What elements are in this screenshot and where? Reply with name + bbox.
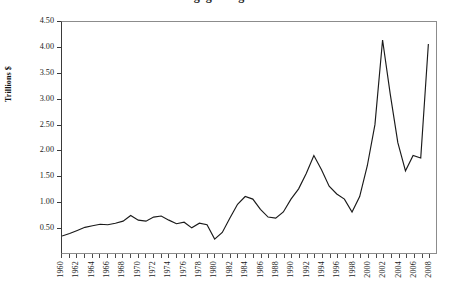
x-axis-tick-mark bbox=[168, 254, 169, 258]
x-axis-tick-mark bbox=[376, 254, 377, 258]
y-axis-tick-label: 2.50 bbox=[24, 120, 54, 129]
x-axis-tick-mark bbox=[207, 254, 208, 258]
x-axis-tick-mark bbox=[115, 254, 116, 258]
x-axis-tick-mark bbox=[184, 254, 185, 258]
y-axis-tick-label: 1.00 bbox=[24, 197, 54, 206]
x-axis-tick-mark bbox=[399, 254, 400, 258]
x-axis-tick-label: 2002 bbox=[379, 261, 387, 278]
plot-area bbox=[61, 21, 437, 254]
x-axis-tick-mark bbox=[237, 254, 238, 258]
x-axis-tick-mark bbox=[130, 254, 131, 258]
x-axis-tick-mark bbox=[161, 254, 162, 258]
y-axis-tick-label: 2.00 bbox=[24, 145, 54, 154]
x-axis-tick-label: 1966 bbox=[103, 261, 111, 278]
x-axis-tick-mark bbox=[345, 254, 346, 258]
y-axis-tick-label: 4.50 bbox=[24, 16, 54, 25]
x-axis-tick-mark bbox=[191, 254, 192, 258]
x-axis-tick-mark bbox=[199, 254, 200, 258]
x-axis-tick-label: 2000 bbox=[364, 261, 372, 278]
x-axis-tick-mark bbox=[230, 254, 231, 258]
x-axis-tick-mark bbox=[368, 254, 369, 258]
x-axis-tick-mark bbox=[214, 254, 215, 258]
x-axis-tick-label: 1968 bbox=[118, 261, 126, 278]
x-axis-tick-mark bbox=[176, 254, 177, 258]
x-axis-tick-mark bbox=[383, 254, 384, 258]
x-axis-tick-label: 1970 bbox=[134, 261, 142, 278]
y-axis-tick-label: 3.00 bbox=[24, 94, 54, 103]
x-axis-tick-mark bbox=[429, 254, 430, 258]
x-axis-tick-mark bbox=[153, 254, 154, 258]
x-axis-tick-mark bbox=[314, 254, 315, 258]
x-axis-tick-label: 2008 bbox=[425, 261, 433, 278]
x-axis-tick-mark bbox=[222, 254, 223, 258]
x-axis-tick-label: 1972 bbox=[149, 261, 157, 278]
x-axis-tick-label: 1992 bbox=[303, 261, 311, 278]
x-axis-tick-label: 1996 bbox=[333, 261, 341, 278]
line-series-svg bbox=[62, 22, 436, 253]
x-axis-tick-label: 1988 bbox=[272, 261, 280, 278]
x-axis-tick-mark bbox=[422, 254, 423, 258]
y-axis-tick-label: 3.50 bbox=[24, 68, 54, 77]
x-axis-tick-mark bbox=[69, 254, 70, 258]
x-axis-tick-mark bbox=[291, 254, 292, 258]
mortgage-originations-line bbox=[62, 40, 428, 239]
x-axis-tick-mark bbox=[391, 254, 392, 258]
chart-title: Mortgage Originations bbox=[0, 0, 452, 4]
x-axis-tick-label: 1984 bbox=[241, 261, 249, 278]
x-axis-tick-mark bbox=[253, 254, 254, 258]
y-axis-tick-label: 0.50 bbox=[24, 223, 54, 232]
x-axis-tick-mark bbox=[107, 254, 108, 258]
chart-figure: Mortgage Originations Trillions $ 0.501.… bbox=[0, 0, 452, 297]
x-axis-tick-label: 1990 bbox=[287, 261, 295, 278]
y-axis-tick-label: 4.00 bbox=[24, 42, 54, 51]
x-axis-tick-label: 2006 bbox=[410, 261, 418, 278]
x-axis-tick-mark bbox=[245, 254, 246, 258]
x-axis-tick-mark bbox=[307, 254, 308, 258]
x-axis-tick-label: 1994 bbox=[318, 261, 326, 278]
y-axis-tick-label: 1.50 bbox=[24, 171, 54, 180]
x-axis-tick-label: 1974 bbox=[164, 261, 172, 278]
x-axis-tick-mark bbox=[261, 254, 262, 258]
x-axis-tick-label: 1982 bbox=[226, 261, 234, 278]
x-axis-tick-label: 1962 bbox=[72, 261, 80, 278]
y-axis-tick-labels: 0.501.001.502.002.503.003.504.004.50 bbox=[24, 0, 54, 297]
x-axis-tick-label: 1976 bbox=[180, 261, 188, 278]
x-axis-tick-label: 1980 bbox=[210, 261, 218, 278]
x-axis-tick-mark bbox=[337, 254, 338, 258]
x-axis-tick-mark bbox=[92, 254, 93, 258]
x-axis-tick-mark bbox=[84, 254, 85, 258]
x-axis-tick-mark bbox=[299, 254, 300, 258]
x-axis-tick-mark bbox=[353, 254, 354, 258]
x-axis-tick-label: 1964 bbox=[88, 261, 96, 278]
y-axis-title: Trillions $ bbox=[2, 22, 16, 102]
x-axis-tick-label: 1960 bbox=[57, 261, 65, 278]
x-axis-tick-mark bbox=[122, 254, 123, 258]
x-axis-tick-mark bbox=[330, 254, 331, 258]
x-axis-tick-mark bbox=[406, 254, 407, 258]
x-axis-tick-mark bbox=[414, 254, 415, 258]
x-axis-tick-mark bbox=[276, 254, 277, 258]
x-axis-tick-mark bbox=[360, 254, 361, 258]
x-axis-tick-mark bbox=[99, 254, 100, 258]
x-axis-tick-mark bbox=[61, 254, 62, 258]
x-axis-tick-label: 1998 bbox=[349, 261, 357, 278]
x-axis-tick-mark bbox=[145, 254, 146, 258]
x-axis-tick-label: 1986 bbox=[257, 261, 265, 278]
x-axis-tick-mark bbox=[76, 254, 77, 258]
x-axis-tick-mark bbox=[138, 254, 139, 258]
x-axis-tick-mark bbox=[268, 254, 269, 258]
x-axis-tick-label: 2004 bbox=[395, 261, 403, 278]
x-axis-tick-mark bbox=[284, 254, 285, 258]
x-axis-tick-label: 1978 bbox=[195, 261, 203, 278]
x-axis-tick-mark bbox=[322, 254, 323, 258]
